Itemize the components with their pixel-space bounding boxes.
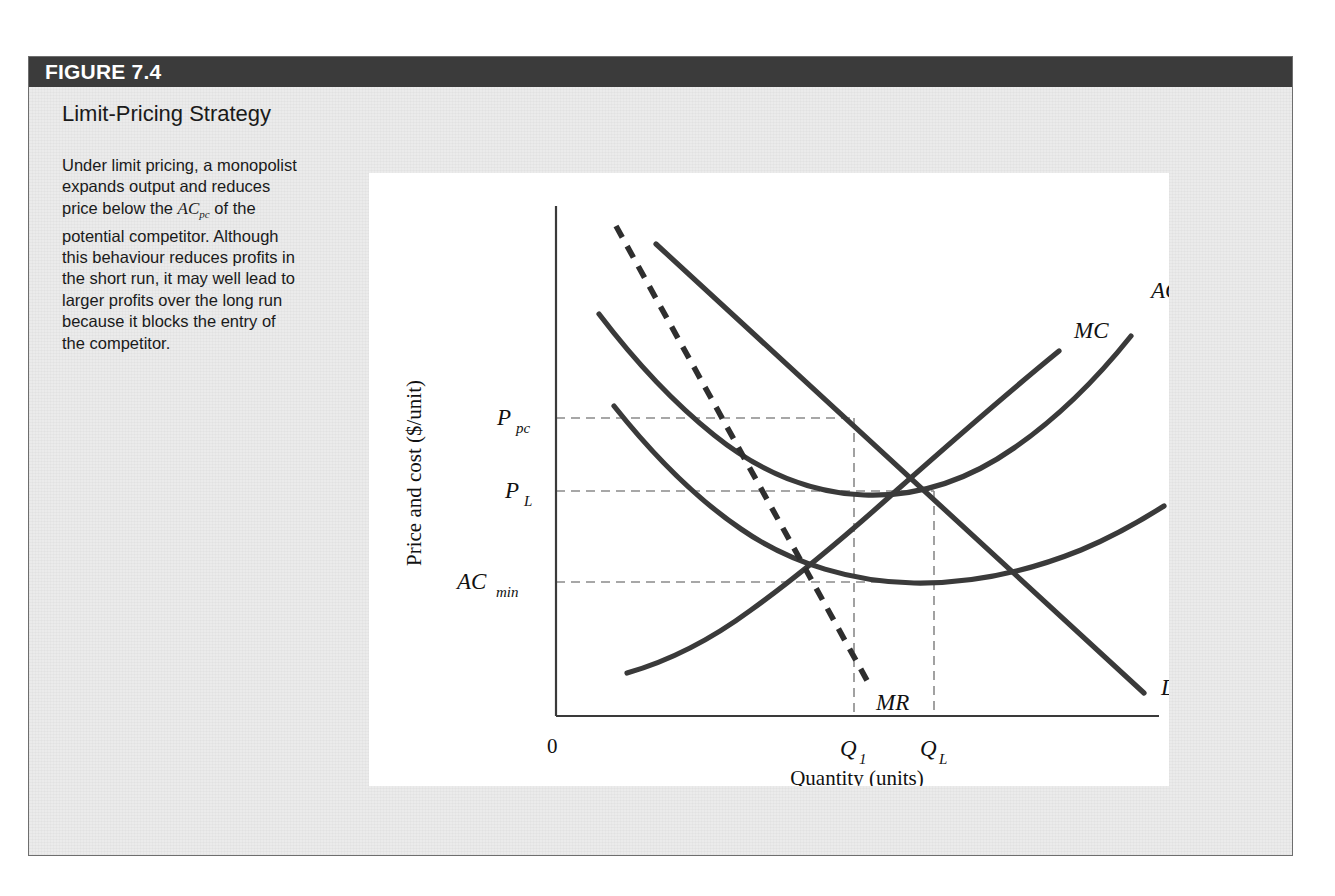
caption-math-base: AC xyxy=(178,199,200,218)
y-axis-title: Price and cost ($/unit) xyxy=(402,380,426,566)
y-tick-label-ppc-sub: pc xyxy=(515,420,531,436)
chart-panel: AC pc MC AC D MR P pc P L AC min xyxy=(369,173,1169,786)
curve-label-mr: MR xyxy=(875,690,909,715)
figure-title: Limit-Pricing Strategy xyxy=(62,101,271,127)
chart-curves xyxy=(599,226,1164,693)
caption-text-part-2: of the potential competitor. Although th… xyxy=(62,199,295,352)
y-tick-label-ppc: P xyxy=(496,405,511,430)
y-tick-label-pl-sub: L xyxy=(523,493,532,509)
x-axis-tick-labels: 0 Q 1 Q L xyxy=(547,734,947,767)
y-tick-label-acmin: AC xyxy=(455,569,487,594)
curve-mc xyxy=(627,351,1059,673)
curve-label-d: D xyxy=(1160,675,1169,700)
chart-axes xyxy=(556,206,1159,716)
x-axis-title: Quantity (units) xyxy=(790,766,924,786)
y-tick-label-acmin-sub: min xyxy=(496,584,519,600)
figure-header-band: FIGURE 7.4 xyxy=(29,57,1292,87)
caption-math-acpc: ACpc xyxy=(178,199,210,218)
limit-pricing-chart: AC pc MC AC D MR P pc P L AC min xyxy=(369,173,1169,786)
curve-label-mc: MC xyxy=(1073,318,1109,343)
x-tick-label-q1-sub: 1 xyxy=(859,751,867,767)
y-tick-label-pl: P xyxy=(504,478,519,503)
caption-math-subscript: pc xyxy=(199,208,209,220)
figure-number-label: FIGURE 7.4 xyxy=(45,60,161,84)
curve-acpc xyxy=(599,314,1131,495)
guide-lines xyxy=(556,418,934,716)
x-tick-label-q1: Q xyxy=(840,736,857,761)
y-axis-tick-labels: P pc P L AC min xyxy=(455,405,532,600)
x-axis-origin-label: 0 xyxy=(547,734,558,758)
figure-caption: Under limit pricing, a monopolist expand… xyxy=(62,155,300,354)
x-tick-label-ql-sub: L xyxy=(938,751,947,767)
curve-label-acpc: AC xyxy=(1149,278,1169,303)
figure-container: FIGURE 7.4 Limit-Pricing Strategy Under … xyxy=(28,56,1293,856)
x-tick-label-ql: Q xyxy=(920,736,937,761)
